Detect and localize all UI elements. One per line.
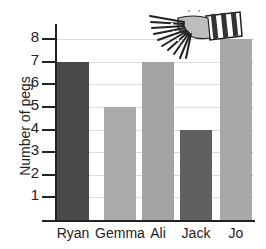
bar-chart: Number of pegs 12345678 RyanGemmaAliJack… bbox=[0, 0, 266, 249]
y-tick bbox=[42, 61, 56, 63]
y-tick bbox=[42, 38, 56, 40]
y-tick-zero bbox=[42, 220, 56, 222]
y-tick bbox=[42, 151, 56, 153]
y-tick-label: 6 bbox=[28, 74, 42, 90]
bar-jack bbox=[180, 130, 212, 220]
y-tick bbox=[42, 106, 56, 108]
y-tick-label: 4 bbox=[28, 120, 42, 136]
bar-ryan bbox=[57, 62, 89, 220]
bar-ali bbox=[142, 62, 174, 220]
y-tick bbox=[42, 196, 56, 198]
y-tick-label: 2 bbox=[28, 165, 42, 181]
y-axis-line bbox=[55, 24, 57, 222]
bar-gemma bbox=[104, 107, 136, 220]
x-tick-label: Jo bbox=[206, 225, 266, 241]
y-tick-label: 1 bbox=[28, 187, 42, 203]
bar-jo bbox=[220, 39, 252, 220]
y-tick-label: 7 bbox=[28, 52, 42, 68]
y-tick bbox=[42, 129, 56, 131]
y-tick-label: 5 bbox=[28, 97, 42, 113]
x-axis-line bbox=[55, 220, 255, 222]
hand-with-pegs-icon bbox=[148, 10, 248, 60]
y-tick-label: 3 bbox=[28, 142, 42, 158]
y-tick-label: 8 bbox=[28, 29, 42, 45]
y-tick bbox=[42, 83, 56, 85]
y-tick bbox=[42, 174, 56, 176]
